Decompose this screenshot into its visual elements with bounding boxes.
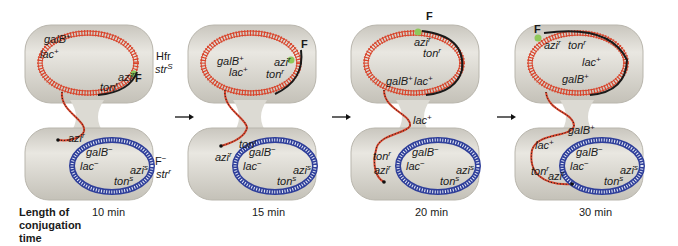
panel-15-min: galB+lac+azirtonrFtonrazirgalB−lac−azist… xyxy=(188,25,316,200)
svg-text:strr: strr xyxy=(156,167,171,180)
f-factor-marker xyxy=(535,35,542,42)
time-label-30: 30 min xyxy=(579,206,612,218)
panel-30-min: Fazirtonrlac+galB+galB+lac+tonrazirgalB−… xyxy=(515,23,643,200)
transferred-gene: lac+ xyxy=(413,113,432,126)
svg-text:Hfr: Hfr xyxy=(156,50,171,62)
time-label-15: 15 min xyxy=(252,206,285,218)
time-label-20: 20 min xyxy=(415,206,448,218)
step-arrow xyxy=(497,114,516,120)
hfr-label: Hfr strS xyxy=(155,50,173,75)
leading-end-arrow xyxy=(570,182,574,186)
step-arrow xyxy=(332,114,351,120)
leading-end-arrow xyxy=(56,138,60,142)
panel-10-min: galB+lac+azirtonrFazirgalB−lac−azistons xyxy=(25,25,153,200)
leading-end-arrow xyxy=(382,180,386,184)
f-minus-label: F− strr xyxy=(155,154,171,180)
f-factor-label: F xyxy=(426,10,433,22)
f-factor-label: F xyxy=(135,72,142,84)
svg-text:F−: F− xyxy=(155,154,167,167)
svg-text:conjugation: conjugation xyxy=(19,219,82,231)
panel-20-min: FazirtonrgalB+lac+lac+tonrazirgalB−lac−a… xyxy=(351,10,479,200)
conjugation-diagram: galB+lac+azirtonrFazirgalB−lac−azistonsg… xyxy=(0,0,678,246)
conjugation-time-label: Length of conjugation time xyxy=(19,206,82,244)
step-arrow xyxy=(175,114,194,120)
f-factor-marker xyxy=(415,29,422,36)
svg-text:strS: strS xyxy=(155,62,173,75)
f-factor-label: F xyxy=(534,23,541,35)
svg-text:Length of: Length of xyxy=(19,206,69,218)
f-factor-label: F xyxy=(301,38,308,50)
leading-end-arrow xyxy=(219,144,223,148)
svg-text:time: time xyxy=(19,232,42,244)
time-label-10: 10 min xyxy=(92,206,125,218)
